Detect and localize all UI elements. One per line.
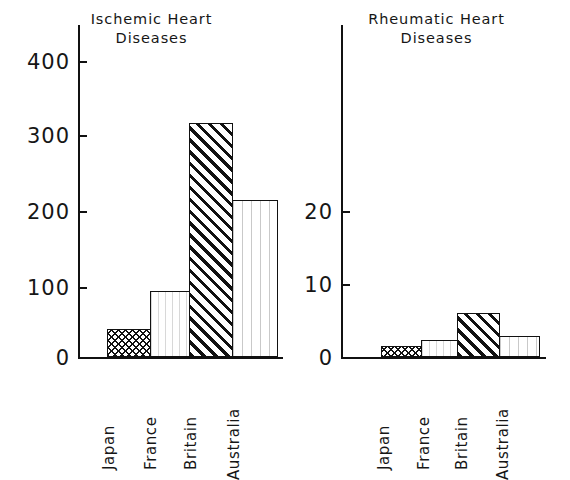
y-tick-label-10-right: 10 <box>277 273 333 297</box>
y-axis-line-left <box>78 25 80 359</box>
y-tick-100-left <box>78 287 87 289</box>
bar-britain-rheumatic[interactable] <box>457 313 500 357</box>
bar-japan-rheumatic[interactable] <box>381 346 422 357</box>
bar-france-ischemic[interactable] <box>150 291 190 357</box>
y-tick-label-300-left: 300 <box>8 124 70 148</box>
x-label-australia-rheumatic: Australia <box>494 408 512 480</box>
x-label-japan-ischemic: Japan <box>100 425 118 470</box>
bar-britain-ischemic[interactable] <box>189 123 233 357</box>
y-tick-label-400-left: 400 <box>8 50 70 74</box>
x-label-britain-rheumatic: Britain <box>453 416 471 470</box>
chart-title-rheumatic: Rheumatic Heart Diseases <box>285 10 570 48</box>
bar-australia-rheumatic[interactable] <box>499 336 540 357</box>
y-tick-label-0-left: 0 <box>8 346 70 370</box>
x-label-japan-rheumatic: Japan <box>375 425 393 470</box>
y-tick-20-right <box>341 211 350 213</box>
y-tick-200-left <box>78 211 87 213</box>
bar-france-rheumatic[interactable] <box>421 340 458 357</box>
x-axis-line-left <box>78 357 283 359</box>
x-label-france-rheumatic: France <box>415 417 433 470</box>
chart-title-ischemic: Ischemic Heart Diseases <box>0 10 285 48</box>
y-tick-300-left <box>78 135 87 137</box>
y-tick-label-20-right: 20 <box>277 200 333 224</box>
y-tick-10-right <box>341 284 350 286</box>
chart-panel-rheumatic: Rheumatic Heart Diseases 20 10 0 Japan F… <box>285 0 570 478</box>
y-axis-line-right <box>341 25 343 359</box>
y-tick-label-100-left: 100 <box>8 276 70 300</box>
x-axis-line-right <box>341 357 546 359</box>
y-tick-400-left <box>78 61 87 63</box>
x-label-australia-ischemic: Australia <box>225 408 243 480</box>
x-label-britain-ischemic: Britain <box>182 416 200 470</box>
x-label-france-ischemic: France <box>142 417 160 470</box>
bar-australia-ischemic[interactable] <box>232 200 278 357</box>
y-tick-label-0-right: 0 <box>277 346 333 370</box>
bar-japan-ischemic[interactable] <box>107 329 151 357</box>
chart-panel-ischemic: Ischemic Heart Diseases 400 300 200 100 … <box>0 0 285 478</box>
y-tick-label-200-left: 200 <box>8 200 70 224</box>
